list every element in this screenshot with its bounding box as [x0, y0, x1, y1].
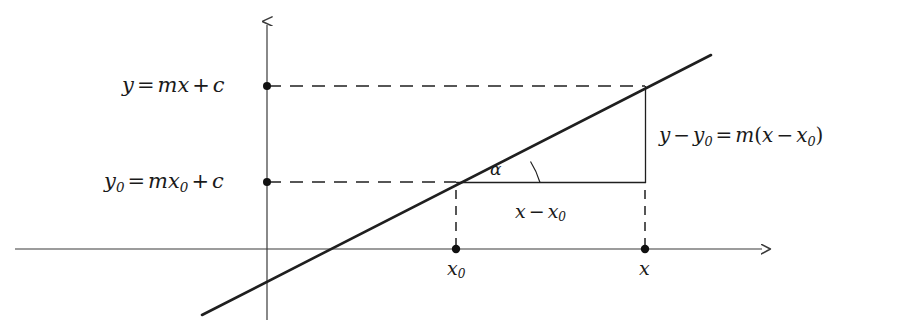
label-rise-rhs: m(x−x0): [735, 123, 823, 147]
label-rise-lhs: y−y0: [659, 123, 713, 147]
label-y-equation-rhs: mx+c: [157, 73, 224, 97]
label-y0-rhs: mx0+c: [148, 169, 224, 193]
axis-tick-label-x: x: [639, 259, 650, 278]
label-angle-alpha: α: [490, 161, 501, 178]
point-y-on-axis: [263, 82, 271, 90]
label-rise-equation: y−y0=m(x−x0): [659, 125, 823, 148]
point-x0-on-axis: [452, 245, 460, 253]
angle-arc: [531, 162, 541, 183]
label-y0-lhs: y0: [104, 169, 124, 193]
point-x-on-axis: [641, 245, 649, 253]
label-y-equation-text: y: [122, 73, 134, 97]
axis-tick-label-x0: x0: [447, 259, 465, 281]
line-slope-diagram: y=mx+c y0=mx0+c y−y0=m(x−x0) x−x0 α x0 x: [0, 0, 900, 327]
label-run: x−x0: [515, 202, 566, 224]
label-run-text: x−x0: [515, 200, 566, 222]
point-y0-on-axis: [263, 178, 271, 186]
label-y0-equation: y0=mx0+c: [104, 171, 224, 194]
axis-tick-label-x-text: x: [639, 257, 650, 279]
label-y-equation: y=mx+c: [122, 75, 225, 96]
